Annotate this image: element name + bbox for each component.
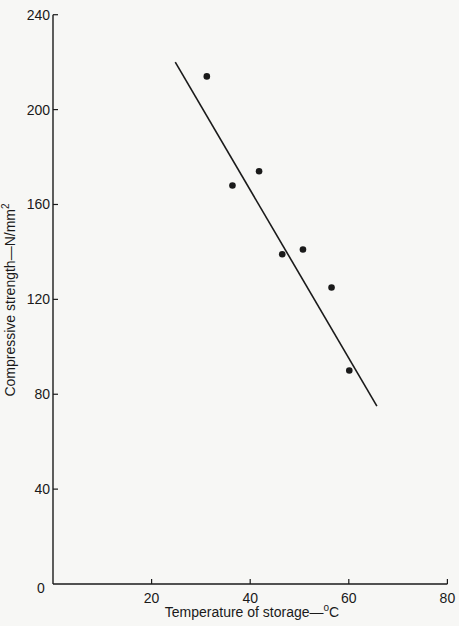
x-tick-label: 60 bbox=[341, 590, 357, 606]
regression-line bbox=[175, 62, 377, 406]
data-point bbox=[204, 73, 211, 80]
y-tick-label: 40 bbox=[34, 481, 50, 497]
y-tick-label: 80 bbox=[34, 386, 50, 402]
y-axis-title: Compressive strength—N/mm2 bbox=[0, 203, 18, 397]
data-point bbox=[229, 182, 236, 189]
data-point bbox=[300, 246, 307, 253]
x-axis-title: Temperature of storage—oC bbox=[165, 602, 339, 620]
data-point bbox=[346, 367, 353, 374]
axis-ticks: 204060804080120160200240 bbox=[27, 7, 456, 606]
data-point bbox=[256, 168, 263, 175]
chart: 204060804080120160200240 Temperature of … bbox=[0, 0, 459, 626]
origin-label: 0 bbox=[37, 580, 45, 596]
data-points bbox=[204, 73, 353, 374]
fitted-line bbox=[175, 62, 377, 406]
y-tick-label: 240 bbox=[27, 7, 51, 23]
axes bbox=[53, 15, 447, 584]
y-tick-label: 120 bbox=[27, 291, 51, 307]
data-point bbox=[279, 251, 286, 258]
x-tick-label: 20 bbox=[144, 590, 160, 606]
data-point bbox=[328, 284, 335, 291]
y-tick-label: 160 bbox=[27, 196, 51, 212]
x-tick-label: 80 bbox=[440, 590, 456, 606]
y-tick-label: 200 bbox=[27, 102, 51, 118]
